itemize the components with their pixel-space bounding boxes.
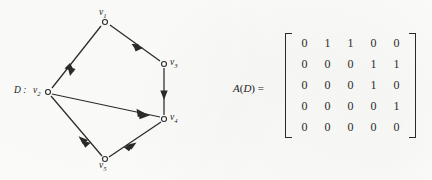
matrix-cell: 0 [362, 96, 385, 117]
vertex-layer [46, 20, 167, 162]
matrix-cell: 1 [316, 33, 339, 54]
table-row: 0 1 1 0 0 [293, 33, 408, 54]
table-row: 0 0 0 0 0 [293, 117, 408, 138]
matrix-cell: 0 [339, 54, 362, 75]
matrix-bracketed-group: 0 1 1 0 0 0 0 0 1 1 0 0 [285, 33, 416, 138]
matrix-panel: A(D) = 0 1 1 0 0 0 0 0 1 [216, 0, 432, 180]
vertex-label-v3: v3 [170, 58, 178, 70]
matrix-cell: 1 [362, 75, 385, 96]
vertex-label-v5: v5 [99, 161, 107, 173]
vertex-label-v1: v1 [99, 8, 107, 20]
matrix-cell: 0 [293, 54, 316, 75]
matrix-table: 0 1 1 0 0 0 0 0 1 1 0 0 [293, 33, 408, 138]
vertex-node-v1 [103, 20, 108, 25]
table-row: 0 0 0 1 1 [293, 54, 408, 75]
digraph-panel: D : [0, 0, 216, 180]
edge-v1-v3 [110, 25, 160, 61]
matrix-cell: 0 [385, 117, 408, 138]
edge-v3-v4 [160, 68, 167, 115]
matrix-cell: 0 [339, 117, 362, 138]
matrix-cell: 0 [316, 117, 339, 138]
matrix-cell: 0 [339, 75, 362, 96]
matrix-cell: 0 [385, 33, 408, 54]
table-row: 0 0 0 1 0 [293, 75, 408, 96]
matrix-cell: 0 [316, 75, 339, 96]
matrix-cell: 0 [362, 33, 385, 54]
table-row: 0 0 0 0 1 [293, 96, 408, 117]
vertex-node-v4 [162, 117, 167, 122]
matrix-cell: 0 [293, 117, 316, 138]
matrix-cell: 0 [293, 33, 316, 54]
matrix-cell: 0 [362, 117, 385, 138]
matrix-left-bracket [285, 33, 292, 138]
matrix-right-bracket [409, 33, 416, 138]
vertex-node-v2 [46, 90, 51, 95]
matrix-cell: 0 [339, 96, 362, 117]
matrix-cell: 1 [385, 96, 408, 117]
edge-layer [51, 25, 168, 157]
vertex-label-v4: v4 [170, 113, 178, 125]
matrix-cell: 1 [339, 33, 362, 54]
matrix-label-equals: = [255, 82, 264, 94]
figure-canvas: D : [0, 0, 432, 180]
edge-v1-v2 [52, 26, 101, 88]
matrix-label-A: A [233, 82, 240, 94]
edge-v4-v5 [109, 122, 161, 157]
vertex-label-v2: v2 [33, 86, 41, 98]
edge-v2-v5 [51, 96, 102, 156]
matrix-cell: 0 [293, 96, 316, 117]
matrix-cell: 0 [385, 75, 408, 96]
matrix-cell: 1 [362, 54, 385, 75]
matrix-cell: 0 [293, 75, 316, 96]
matrix-cell: 1 [385, 54, 408, 75]
matrix-label: A(D) = [233, 82, 264, 94]
matrix-cell: 0 [316, 96, 339, 117]
vertex-node-v3 [162, 62, 167, 67]
matrix-cell: 0 [316, 54, 339, 75]
